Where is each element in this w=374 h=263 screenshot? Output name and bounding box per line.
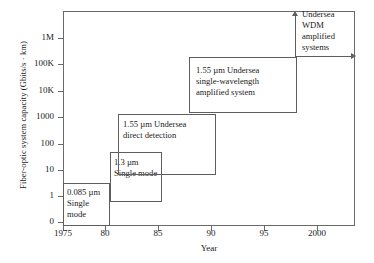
wdm-label-line2: WDM xyxy=(302,20,324,31)
wdm-horizontal-arrow-line xyxy=(295,56,353,57)
step-label-155um-amplified-line1: 1.55 µm Undersea xyxy=(196,65,259,76)
x-tick-label-80: 80 xyxy=(85,229,125,238)
y-tick-mark xyxy=(58,91,63,92)
y-tick-label-100k: 100K xyxy=(0,59,54,68)
wdm-vertical-arrow-line xyxy=(295,16,296,58)
step-label-0085um-line3: mode xyxy=(67,209,86,220)
step-label-0085um-line2: Single xyxy=(67,198,89,209)
y-tick-label-1: 1 xyxy=(0,191,54,200)
step-label-155um-amplified-line3: amplified system xyxy=(196,87,255,98)
step-label-155um-direct-line1: 1.55 µm Undersea xyxy=(123,119,186,130)
y-tick-label-100: 100 xyxy=(0,139,54,148)
y-tick-mark xyxy=(58,144,63,145)
y-tick-label-0: 0 xyxy=(0,217,54,226)
step-label-155um-direct-line2: direct detection xyxy=(123,130,176,141)
y-tick-label-10k: 10K xyxy=(0,86,54,95)
x-tick-label-90: 90 xyxy=(191,229,231,238)
wdm-label-line3: amplified xyxy=(302,31,335,42)
step-label-155um-amplified-line2: single-wavelength xyxy=(196,76,259,87)
x-tick-label-85: 85 xyxy=(138,229,178,238)
y-tick-mark xyxy=(58,38,63,39)
x-tick-label-2000: 2000 xyxy=(297,229,337,238)
y-tick-label-10: 10 xyxy=(0,165,54,174)
x-tick-label-1975: 1975 xyxy=(43,229,83,238)
y-tick-mark xyxy=(58,117,63,118)
wdm-label-line1: Undersea xyxy=(302,9,334,20)
fiber-optic-capacity-chart: Fiber-optic system capacity (Gbits/s · k… xyxy=(0,0,374,263)
y-tick-label-1m: 1M xyxy=(0,33,54,42)
y-tick-mark xyxy=(58,64,63,65)
x-tick-label-95: 95 xyxy=(244,229,284,238)
x-axis-title: Year xyxy=(63,243,355,253)
wdm-up-arrow-head xyxy=(292,11,298,16)
wdm-label-line4: systems xyxy=(302,42,329,53)
wdm-right-arrow-head xyxy=(351,53,356,59)
y-tick-label-1000: 1000 xyxy=(0,112,54,121)
y-tick-mark xyxy=(58,170,63,171)
step-label-0085um-line1: 0.085 µm xyxy=(67,187,100,198)
